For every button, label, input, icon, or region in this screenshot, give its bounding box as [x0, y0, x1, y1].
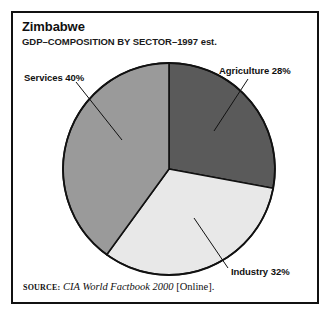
pie-label-agriculture: Agriculture 28%: [219, 65, 291, 76]
pie-label-industry: Industry 32%: [231, 266, 290, 277]
pie-slice-agriculture: [169, 63, 275, 188]
source-work-title: CIA World Factbook 2000: [63, 281, 174, 292]
source-note: SOURCE: CIA World Factbook 2000 [Online]…: [23, 281, 214, 292]
figure-panel: Zimbabwe GDP–COMPOSITION BY SECTOR–1997 …: [0, 0, 335, 320]
source-kicker: SOURCE:: [23, 283, 60, 292]
pie-label-services: Services 40%: [24, 72, 84, 83]
source-medium: [Online].: [176, 281, 214, 292]
